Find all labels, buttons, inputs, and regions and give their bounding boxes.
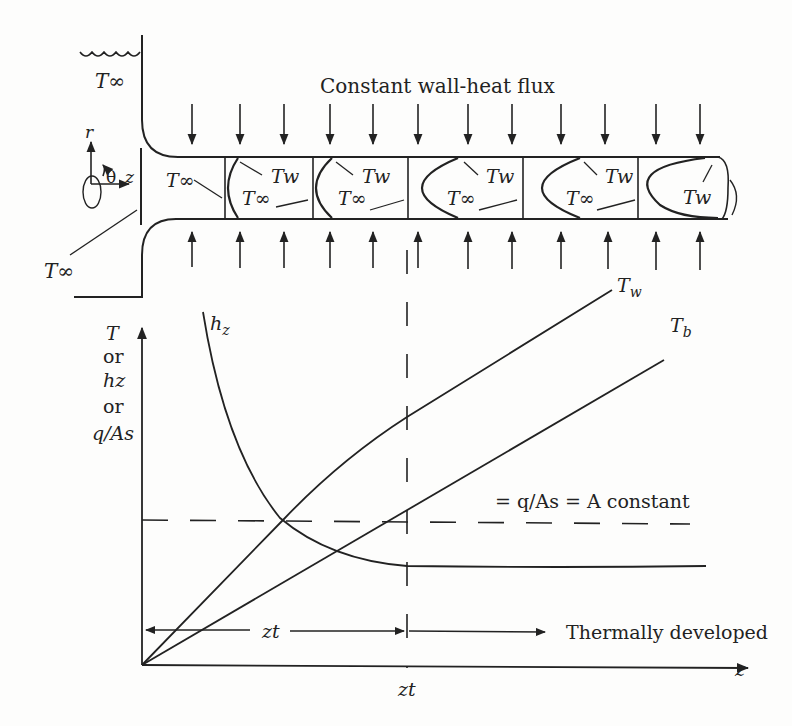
y-axis-label-or: or bbox=[103, 395, 124, 417]
hz-curve-label: hz bbox=[210, 312, 230, 338]
flux-arrows-top bbox=[192, 104, 700, 144]
section-center-label: T∞ bbox=[338, 187, 367, 209]
developed-label: Thermally developed bbox=[566, 621, 768, 643]
entrance-span-label: zt bbox=[261, 620, 280, 642]
inlet-temp-label: T∞ bbox=[44, 259, 74, 283]
curve-Tw bbox=[142, 290, 612, 665]
r-label: r bbox=[85, 122, 94, 142]
theta-rotation bbox=[83, 176, 101, 208]
entrance-span bbox=[146, 630, 545, 632]
profile-2 bbox=[316, 158, 332, 218]
Tw-curve-label: Tw bbox=[617, 274, 642, 300]
z-label-tube: z bbox=[124, 167, 135, 187]
section-center-label: T∞ bbox=[242, 187, 271, 209]
section-center-label: T∞ bbox=[566, 187, 595, 209]
diagram-canvas: r θ z T∞ T∞ Constant wall-heat flux bbox=[0, 0, 792, 726]
diagram-svg: r θ z T∞ T∞ Constant wall-heat flux bbox=[0, 0, 792, 726]
flux-constant-label: = q/As = A constant bbox=[495, 490, 690, 512]
section-center-label: T∞ bbox=[447, 187, 476, 209]
y-axis-label-or: or bbox=[103, 345, 124, 367]
y-axis-label-hz: hz bbox=[103, 369, 126, 391]
section-wall-label: Tw bbox=[362, 165, 390, 187]
section-wall-label: Tw bbox=[271, 165, 299, 187]
section-center-label: T∞ bbox=[166, 169, 195, 191]
theta-arrow bbox=[103, 165, 105, 176]
x-axis bbox=[142, 665, 748, 668]
developed-arrow bbox=[409, 631, 545, 632]
flux-arrows-bottom bbox=[192, 232, 700, 270]
profile-1 bbox=[228, 158, 238, 218]
curve-hz bbox=[203, 312, 706, 567]
section-wall-label: Tw bbox=[486, 165, 514, 187]
diagram-title: Constant wall-heat flux bbox=[320, 74, 556, 98]
curve-Tb bbox=[142, 360, 664, 665]
y-axis-label-flux: q/As bbox=[92, 422, 134, 444]
tube-end-cap-curl bbox=[730, 180, 737, 215]
inlet-leader-line bbox=[70, 210, 137, 255]
section-wall-label: Tw bbox=[683, 186, 711, 208]
x-tick-zt: zt bbox=[397, 678, 416, 700]
section-wall-label: Tw bbox=[605, 165, 633, 187]
y-axis-label-T: T bbox=[106, 322, 120, 344]
graph-curves bbox=[142, 290, 706, 665]
reservoir-temp-label: T∞ bbox=[95, 69, 125, 93]
flux-constant-line bbox=[142, 520, 690, 524]
tube-end-cap bbox=[718, 157, 728, 219]
Tb-curve-label: Tb bbox=[670, 314, 692, 340]
x-axis-label: z bbox=[734, 658, 746, 680]
water-surface bbox=[80, 52, 140, 56]
theta-label: θ bbox=[106, 167, 116, 187]
